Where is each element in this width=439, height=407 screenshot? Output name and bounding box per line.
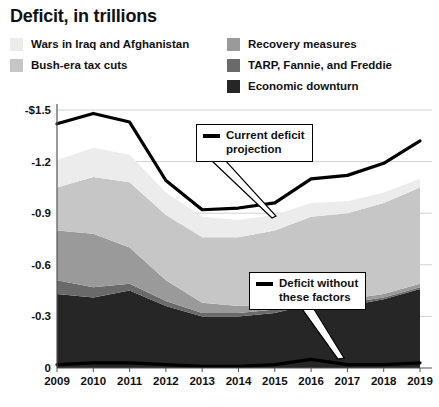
- y-tick-label: -0.3: [31, 310, 51, 322]
- y-axis-ticks: -$1.5-1.2-0.9-0.6-0.30: [25, 104, 52, 374]
- x-tick-label: 2009: [44, 375, 70, 387]
- legend-column-right: Recovery measures TARP, Fannie, and Fred…: [227, 34, 439, 97]
- legend-swatch-tarp: [227, 59, 240, 72]
- legend-column-left: Wars in Iraq and Afghanistan Bush-era ta…: [10, 34, 215, 76]
- legend-label-recovery-measures: Recovery measures: [248, 38, 357, 51]
- legend-item-recovery-measures: Recovery measures: [227, 34, 439, 54]
- x-tick-label: 2012: [153, 375, 179, 387]
- legend-swatch-economic-downturn: [227, 80, 240, 93]
- legend-swatch-wars: [10, 38, 23, 51]
- line-swatch-icon: [256, 282, 273, 286]
- legend: Wars in Iraq and Afghanistan Bush-era ta…: [10, 34, 430, 96]
- legend-label-economic-downturn: Economic downturn: [248, 80, 359, 93]
- y-tick-label: -$1.5: [25, 104, 52, 116]
- x-tick-label: 2017: [335, 375, 361, 387]
- chart-root: Deficit, in trillions Wars in Iraq and A…: [0, 0, 439, 407]
- legend-item-economic-downturn: Economic downturn: [227, 76, 439, 96]
- x-tick-label: 2011: [117, 375, 143, 387]
- y-tick-label: -0.9: [31, 207, 51, 219]
- x-tick-label: 2019: [407, 375, 433, 387]
- y-tick-label: 0: [45, 362, 51, 374]
- annotation-current-deficit-projection: Current deficit projection: [196, 124, 313, 162]
- annotation-current-deficit-projection-text: Current deficit projection: [226, 129, 305, 156]
- line-swatch-icon: [203, 134, 220, 138]
- legend-label-tarp: TARP, Fannie, and Freddie: [248, 59, 392, 72]
- page-title: Deficit, in trillions: [10, 6, 157, 27]
- x-tick-label: 2015: [262, 375, 288, 387]
- x-tick-label: 2014: [226, 375, 252, 387]
- y-tick-label: -1.2: [31, 156, 51, 168]
- x-tick-label: 2013: [189, 375, 215, 387]
- legend-item-tarp: TARP, Fannie, and Freddie: [227, 55, 439, 75]
- x-axis-ticks: 2009201020112012201320142015201620172018…: [44, 368, 433, 387]
- annotation-deficit-without-these-factors: Deficit without these factors: [249, 272, 366, 310]
- x-tick-label: 2018: [371, 375, 397, 387]
- legend-item-bush-era-tax-cuts: Bush-era tax cuts: [10, 55, 215, 75]
- x-tick-label: 2010: [81, 375, 107, 387]
- y-tick-label: -0.6: [31, 259, 51, 271]
- legend-label-bush-era-tax-cuts: Bush-era tax cuts: [31, 59, 128, 72]
- legend-label-wars: Wars in Iraq and Afghanistan: [31, 38, 189, 51]
- legend-item-wars: Wars in Iraq and Afghanistan: [10, 34, 215, 54]
- x-tick-label: 2016: [298, 375, 324, 387]
- annotation-deficit-without-these-factors-text: Deficit without these factors: [279, 277, 358, 304]
- legend-swatch-recovery-measures: [227, 38, 240, 51]
- legend-swatch-bush-era-tax-cuts: [10, 59, 23, 72]
